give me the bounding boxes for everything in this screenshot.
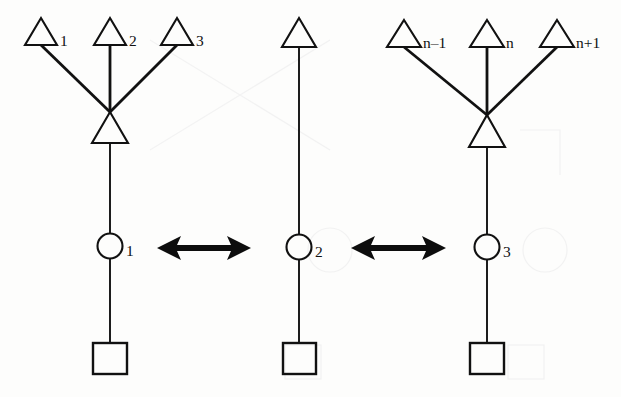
triangle-node-left-leaf-1[interactable] — [25, 18, 57, 45]
square-node-left[interactable] — [93, 343, 127, 374]
label-right-leaf-2: n — [506, 34, 514, 51]
label-middle-circle: 2 — [315, 243, 323, 260]
diagram-canvas: 1 2 3 1 2 — [0, 0, 621, 397]
triangle-node-middle-top[interactable] — [282, 18, 316, 47]
label-right-leaf-1: n–1 — [423, 34, 446, 51]
triangle-node-left-junction[interactable] — [92, 112, 128, 143]
label-left-circle: 1 — [126, 242, 134, 259]
square-node-right[interactable] — [470, 343, 504, 374]
diagram-svg: 1 2 3 1 2 — [0, 0, 621, 397]
label-left-leaf-1: 1 — [60, 32, 68, 49]
square-node-middle[interactable] — [283, 343, 316, 374]
triangle-node-left-leaf-3[interactable] — [161, 18, 193, 45]
double-arrow-middle-right[interactable] — [351, 236, 446, 260]
branch-line-leafn2-to-junction — [487, 47, 557, 115]
branch-line-leaf1-to-junction — [41, 45, 110, 112]
left-structure-group: 1 2 3 1 — [25, 18, 204, 374]
label-right-leaf-3: n+1 — [576, 34, 600, 51]
label-right-circle: 3 — [503, 243, 511, 260]
triangle-node-right-junction[interactable] — [469, 115, 505, 147]
label-left-leaf-2: 2 — [129, 32, 137, 49]
circle-node-left[interactable] — [98, 234, 123, 259]
label-left-leaf-3: 3 — [196, 32, 204, 49]
middle-structure-group: 2 — [282, 18, 323, 374]
branch-line-leaf3-to-junction — [110, 45, 177, 112]
triangle-node-right-leaf-2[interactable] — [470, 20, 504, 47]
triangle-node-right-leaf-1[interactable] — [387, 20, 421, 47]
circle-node-right[interactable] — [475, 235, 500, 260]
right-structure-group: n–1 n n+1 3 — [387, 20, 600, 374]
branch-line-leafn1-to-junction — [404, 47, 487, 115]
triangle-node-right-leaf-3[interactable] — [540, 20, 574, 47]
triangle-node-left-leaf-2[interactable] — [94, 18, 126, 45]
double-arrow-left-middle[interactable] — [157, 236, 251, 260]
paper-artifacts — [150, 40, 567, 379]
